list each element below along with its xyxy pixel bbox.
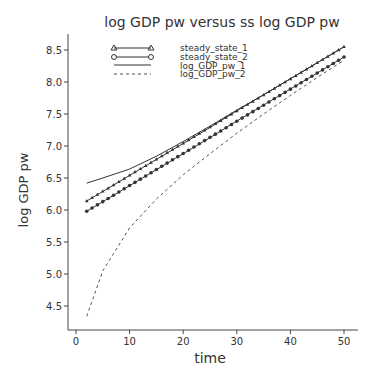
y-tick-label: 4.5 [46, 301, 62, 312]
legend: steady_state_1 steady_state_2 log_GDP_pw… [111, 43, 248, 79]
y-tick-label: 6.0 [46, 205, 62, 216]
x-tick-label: 10 [123, 336, 136, 347]
y-tick-label: 5.0 [46, 269, 62, 280]
legend-label: log_GDP_pw_2 [180, 69, 245, 79]
legend-item-log-gdp-pw-2: log_GDP_pw_2 [114, 69, 245, 79]
y-axis-label: log GDP pw [16, 152, 31, 227]
y-ticks: 4.55.05.56.06.57.07.58.08.5 [46, 45, 68, 312]
x-tick-label: 0 [73, 336, 79, 347]
y-tick-label: 5.5 [46, 237, 62, 248]
y-tick-label: 8.5 [46, 45, 62, 56]
x-tick-label: 30 [230, 336, 243, 347]
series-group [85, 45, 346, 316]
y-tick-label: 6.5 [46, 173, 62, 184]
chart-title: log GDP pw versus ss log GDP pw [104, 14, 339, 30]
circle-marker-icon [112, 55, 117, 60]
x-tick-label: 20 [177, 336, 190, 347]
x-axis-label: time [194, 350, 226, 366]
y-tick-label: 7.5 [46, 109, 62, 120]
x-tick-label: 50 [338, 336, 351, 347]
chart-canvas: log GDP pw versus ss log GDP pw log GDP … [0, 0, 381, 382]
y-tick-label: 8.0 [46, 77, 62, 88]
x-tick-label: 40 [284, 336, 297, 347]
circle-marker-icon [149, 55, 154, 60]
x-ticks: 01020304050 [73, 330, 351, 347]
y-tick-label: 7.0 [46, 141, 62, 152]
